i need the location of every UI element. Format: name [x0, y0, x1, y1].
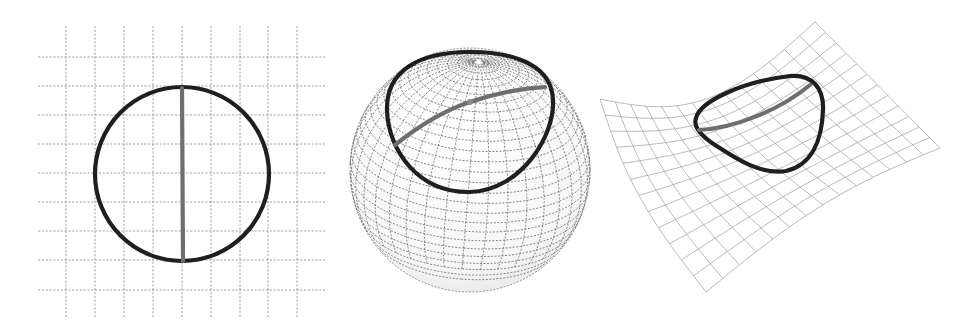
curvature-figure [0, 0, 970, 326]
saddle-grid-line [600, 22, 815, 107]
saddle-grid-line [600, 99, 706, 292]
saddle-mesh [600, 22, 940, 292]
saddle-grid-line [706, 148, 940, 292]
saddle-grid-line [738, 84, 856, 186]
saddle-panel [600, 22, 940, 292]
saddle-grid-line [754, 74, 874, 178]
saddle-grid-line [694, 138, 930, 276]
flat-diameter [182, 88, 183, 261]
sphere-pole [467, 99, 473, 105]
saddle-grid-line [784, 50, 906, 163]
sphere-panel [350, 48, 590, 292]
flat-plane-panel [38, 26, 325, 318]
